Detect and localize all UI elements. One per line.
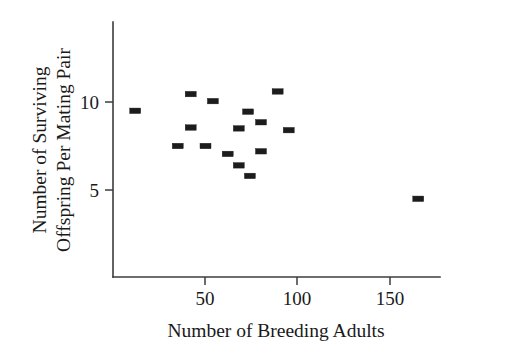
x-axis-ticks <box>205 277 390 285</box>
plot-canvas: 10 5 50 100 150 Number of Breeding Adult… <box>0 0 513 358</box>
data-point <box>222 151 233 157</box>
data-point <box>233 163 244 169</box>
data-point <box>207 98 218 104</box>
data-point <box>283 127 294 133</box>
x-tick-label-150: 150 <box>376 288 405 309</box>
data-point <box>256 149 267 155</box>
x-tick-label-100: 100 <box>283 288 312 309</box>
data-point <box>130 108 141 114</box>
data-point <box>413 196 424 202</box>
y-axis-title-line1: Number of Surviving <box>29 66 50 233</box>
scatter-plot-figure: 10 5 50 100 150 Number of Breeding Adult… <box>0 0 513 358</box>
y-axis-ticks <box>105 102 113 190</box>
data-point-group <box>130 89 424 202</box>
data-point <box>200 143 211 149</box>
data-point <box>233 126 244 131</box>
data-point <box>256 119 267 125</box>
data-point <box>272 89 283 95</box>
data-point <box>244 173 255 179</box>
data-point <box>185 125 196 130</box>
x-axis-title: Number of Breeding Adults <box>167 320 384 341</box>
data-point <box>243 109 254 115</box>
y-tick-label-10: 10 <box>80 92 99 113</box>
data-point <box>185 91 196 97</box>
x-tick-label-50: 50 <box>196 288 215 309</box>
data-point <box>172 143 183 149</box>
y-axis-title-line2: Offspring Per Mating Pair <box>53 48 74 252</box>
y-tick-label-5: 5 <box>90 180 100 201</box>
